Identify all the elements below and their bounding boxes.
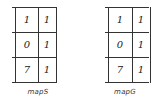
grid-line [12, 82, 56, 83]
cell-r1-c0: 0 [110, 32, 130, 57]
map-s-label: mapS [8, 88, 68, 96]
cell-r1-c1: 1 [131, 32, 151, 57]
cell-r2-c0: 7 [17, 57, 37, 82]
grid-line [108, 7, 109, 83]
cell-r1-c1: 1 [37, 32, 57, 57]
cell-r2-c1: 1 [131, 57, 151, 82]
cell-r0-c0: 1 [110, 7, 130, 32]
map-s-grid: 1 1 0 1 7 1 [15, 7, 56, 82]
cell-r0-c0: 1 [17, 7, 37, 32]
grid-line [15, 7, 16, 83]
cell-r0-c1: 1 [37, 7, 57, 32]
cell-r0-c1: 1 [131, 7, 151, 32]
cell-r2-c1: 1 [37, 57, 57, 82]
grid-line [105, 82, 149, 83]
map-g-grid: 1 1 0 1 7 1 [108, 7, 149, 82]
cell-r2-c0: 7 [110, 57, 130, 82]
cell-r1-c0: 0 [17, 32, 37, 57]
map-g-label: mapG [95, 88, 155, 96]
